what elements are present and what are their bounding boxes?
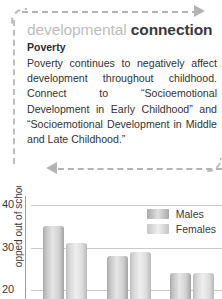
callout-heading-light: developmental [27, 21, 127, 38]
legend-item: Females [147, 223, 216, 235]
callout-body-text: Poverty continues to negatively affect d… [27, 56, 217, 147]
bar-females-3 [193, 273, 214, 299]
bar-males-3 [170, 273, 191, 299]
arrow-right-icon [194, 5, 205, 17]
bar-females-1 [66, 243, 87, 299]
dashed-line-bottom [58, 168, 222, 170]
legend-item: Males [147, 208, 216, 220]
bar-chart: opped out of school 403020 MalesFemales [0, 186, 222, 299]
legend-swatch-males [147, 209, 169, 219]
y-tick-label: 30 [2, 241, 24, 253]
bar-females-2 [130, 252, 151, 299]
callout-subheading: Poverty [27, 41, 66, 53]
dashed-line-left [13, 20, 15, 164]
y-tick-label: 20 [2, 283, 24, 295]
developmental-connection-callout: developmental connection Poverty Poverty… [0, 0, 222, 160]
callout-heading-bold: connection [131, 21, 213, 38]
legend-label-females: Females [176, 223, 216, 235]
chart-y-axis-line [25, 196, 26, 299]
arrow-left-icon [46, 162, 57, 174]
dashed-line-top [22, 11, 198, 13]
legend-label-males: Males [176, 208, 204, 220]
legend-swatch-females [147, 224, 169, 234]
bar-males-2 [107, 256, 128, 299]
callout-heading: developmental connection [27, 21, 217, 39]
chart-legend: MalesFemales [147, 208, 216, 238]
bar-males-1 [43, 226, 64, 299]
y-tick-label: 40 [2, 198, 24, 210]
